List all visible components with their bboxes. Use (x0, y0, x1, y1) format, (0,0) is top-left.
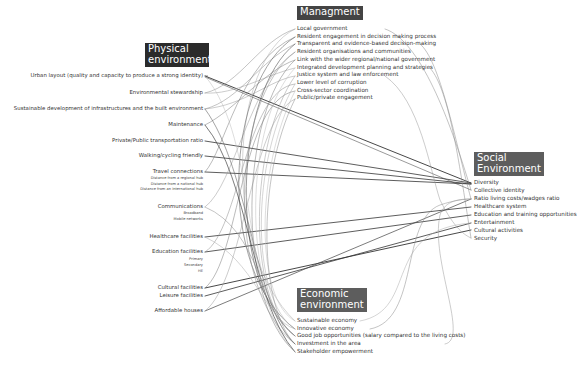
social-title-line1: Social (477, 153, 541, 164)
physical-item-maintenance: Maintenance (168, 122, 203, 127)
physical-title-line2: environment (148, 55, 206, 66)
management-item-public-private: Public/private engagement (297, 95, 373, 101)
physical-item-affordable-houses: Affordable houses (154, 308, 203, 313)
communications-sub-broadband: Broadband (183, 212, 203, 216)
travel-sub-regional: Distance from a regional hub (151, 177, 203, 181)
economic-item-sustainable-economy: Sustainable economy (297, 318, 357, 324)
social-item-education-training: Education and training opportunities (474, 212, 577, 218)
economic-title-line2: environment (300, 300, 364, 311)
management-title: Managment (297, 6, 363, 20)
physical-item-leisure: Leisure facilities (160, 293, 203, 298)
economic-item-innovative-economy: Innovative economy (297, 326, 354, 332)
physical-item-walking-cycling: Walking/cycling friendly (139, 153, 203, 158)
physical-environment-title: Physical environment (145, 43, 209, 67)
management-item-lower-corruption: Lower level of corruption (297, 80, 367, 86)
physical-item-cultural: Cultural facilities (158, 285, 203, 290)
social-item-entertainment: Entertainment (474, 220, 514, 226)
communications-sub-mobile: Mobile networks (174, 218, 203, 222)
management-item-resident-engagement: Resident engagement in decision making p… (297, 34, 436, 40)
physical-item-communications: Communications (158, 204, 203, 209)
management-item-resident-organisations: Resident organisations and communities (297, 49, 411, 55)
management-item-link-wider-government: Link with the wider regional/national go… (297, 57, 435, 63)
economic-item-stakeholder-empowerment: Stakeholder empowerment (297, 349, 373, 355)
social-title-line2: Environment (477, 164, 541, 175)
management-item-transparent-decisions: Transparent and evidence-based decision-… (297, 41, 436, 47)
physical-item-urban-layout: Urban layout (quality and capacity to pr… (31, 73, 203, 78)
travel-sub-national: Distance from a national hub (151, 183, 203, 187)
social-item-diversity: Diversity (474, 180, 499, 186)
social-item-cultural-activities: Cultural activities (474, 228, 523, 234)
link-leisure-social (205, 223, 471, 296)
physical-item-travel-connections: Travel connections (153, 169, 203, 174)
management-item-justice-system: Justice system and law enforcement (297, 72, 399, 78)
social-item-healthcare-system: Healthcare system (474, 204, 527, 210)
education-sub-he: HE (198, 270, 203, 274)
management-item-cross-sector: Cross-sector coordination (297, 88, 368, 94)
link-cultural-social (205, 230, 471, 288)
physical-title-line1: Physical (148, 44, 206, 55)
social-item-living-costs-ratio: Ratio living costs/wadges ratio (474, 196, 560, 202)
social-item-security: Security (474, 236, 497, 242)
education-sub-primary: Primary (189, 258, 203, 262)
physical-item-healthcare: Healthcare facilities (150, 234, 204, 239)
physical-item-education: Education facilities (152, 249, 203, 254)
physical-item-sustainable-development: Sustainable development of infrastructur… (14, 106, 203, 111)
economic-item-investment: Investment in the area (297, 341, 361, 347)
physical-item-transport-ratio: Private/Public transportation ratio (112, 138, 203, 143)
economic-item-good-job-opportunities: Good job opportunities (salary compared … (297, 333, 465, 339)
economic-environment-title: Economic environment (297, 288, 367, 312)
travel-sub-international: Distance from an international hub (140, 188, 203, 192)
management-item-integrated-planning: Integrated development planning and stra… (297, 65, 433, 71)
education-sub-secondary: Secondary (184, 264, 203, 268)
physical-item-environmental-stewardship: Environmental stewardship (129, 90, 203, 95)
social-item-collective-identity: Collective identity (474, 188, 525, 194)
social-environment-title: Social Environment (474, 152, 544, 176)
economic-title-line1: Economic (300, 289, 364, 300)
management-item-local-government: Local government (297, 26, 347, 32)
